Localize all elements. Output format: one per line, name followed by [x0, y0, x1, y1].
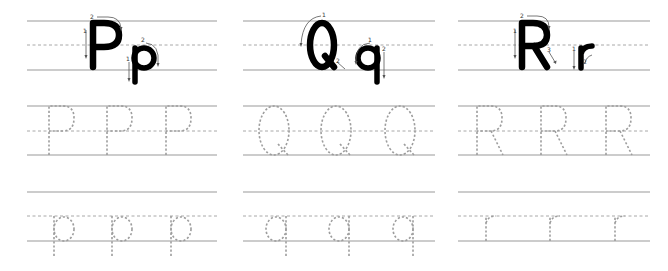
trace-letter-r: [486, 216, 496, 241]
stroke-number-2: 2: [90, 13, 94, 20]
trace-letter-p: [112, 216, 132, 256]
column-2-lines: [243, 21, 435, 241]
stroke-number-1: 1: [83, 27, 87, 34]
stroke-guide-Q: 1 2: [300, 11, 346, 69]
trace-letter-p: [54, 216, 74, 256]
trace-row-lowercase-q: [266, 216, 413, 256]
trace-letter-p: [171, 216, 191, 256]
trace-letter-R: [606, 106, 632, 155]
trace-letter-P: [49, 106, 74, 155]
stroke-number-3: 3: [547, 46, 551, 53]
stroke-number-2: 2: [141, 36, 145, 43]
stroke-number-2: 2: [336, 57, 340, 64]
stroke-number-2: 2: [382, 45, 386, 52]
tracing-worksheet: 1 2 1 2 1 2: [0, 0, 668, 271]
model-letter-p: 1 2: [126, 36, 160, 82]
model-letter-R: 1 2 3: [513, 12, 557, 67]
stroke-number-1: 1: [322, 11, 326, 18]
trace-letter-r: [550, 216, 560, 241]
model-letter-Q: 1 2: [300, 11, 346, 69]
trace-row-lowercase-p: [54, 216, 191, 256]
trace-letter-q: [266, 216, 286, 256]
trace-letter-r: [615, 216, 625, 241]
column-1-lines: [27, 21, 217, 241]
stroke-number-1: 1: [126, 55, 130, 62]
stroke-number-1: 1: [368, 36, 372, 43]
trace-letter-q: [393, 216, 413, 256]
trace-row-uppercase-P: [49, 106, 191, 155]
trace-letter-q: [329, 216, 349, 256]
stroke-number-2: 2: [583, 58, 587, 65]
model-letter-q: 1 2: [355, 36, 387, 82]
stroke-number-1: 1: [572, 45, 576, 52]
stroke-number-1: 1: [513, 27, 517, 34]
stroke-number-2: 2: [520, 12, 524, 19]
trace-row-lowercase-r: [486, 216, 625, 241]
model-letter-r: 1 2: [572, 45, 592, 70]
